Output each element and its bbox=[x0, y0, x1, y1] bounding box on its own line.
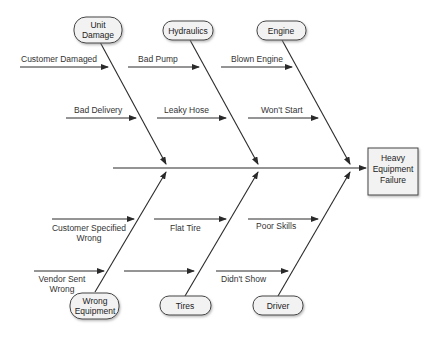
effect-box[interactable]: Heavy Equipment Failure bbox=[368, 148, 418, 195]
effect-line-2: Equipment bbox=[373, 164, 414, 174]
category-tires[interactable]: Tires bbox=[160, 296, 211, 315]
fishbone-diagram: Heavy Equipment Failure Unit Damage Hydr… bbox=[0, 0, 439, 337]
cause-vendor-sent-wrong: Vendor Sent bbox=[39, 274, 86, 284]
category-label: Engine bbox=[268, 26, 295, 36]
effect-line-3: Failure bbox=[380, 175, 406, 185]
cause-bad-pump: Bad Pump bbox=[138, 54, 178, 64]
cause-blown-engine: Blown Engine bbox=[231, 54, 283, 64]
bone-engine bbox=[282, 40, 350, 164]
category-hydraulics[interactable]: Hydraulics bbox=[163, 21, 213, 40]
cause-poor-skills: Poor Skills bbox=[256, 221, 296, 231]
effect-line-1: Heavy bbox=[381, 153, 406, 163]
category-label: Equipment bbox=[75, 306, 116, 316]
category-label: Tires bbox=[176, 301, 195, 311]
cause-flat-tire: Flat Tire bbox=[170, 223, 201, 233]
cause-wont-start: Won't Start bbox=[261, 105, 303, 115]
category-engine[interactable]: Engine bbox=[257, 21, 306, 40]
category-driver[interactable]: Driver bbox=[253, 296, 303, 315]
cause-didnt-show: Didn't Show bbox=[221, 274, 267, 284]
category-wrong-equipment[interactable]: Wrong Equipment bbox=[70, 293, 119, 319]
cause-customer-specified-wrong: Wrong bbox=[77, 233, 102, 243]
cause-customer-damaged: Customer Damaged bbox=[21, 54, 97, 64]
cause-vendor-sent-wrong: Wrong bbox=[50, 284, 75, 294]
category-label: Hydraulics bbox=[168, 26, 208, 36]
category-label: Driver bbox=[267, 301, 290, 311]
cause-customer-specified-wrong: Customer Specified bbox=[52, 223, 126, 233]
cause-leaky-hose: Leaky Hose bbox=[164, 105, 209, 115]
cause-bad-delivery: Bad Delivery bbox=[74, 105, 123, 115]
category-label: Unit bbox=[90, 20, 106, 30]
category-unit-damage[interactable]: Unit Damage bbox=[74, 17, 122, 43]
category-label: Wrong bbox=[83, 296, 108, 306]
category-label: Damage bbox=[82, 30, 114, 40]
bone-driver bbox=[278, 172, 350, 296]
